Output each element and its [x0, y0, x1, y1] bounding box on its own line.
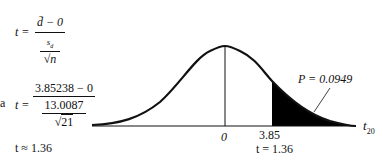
- tick-label-3-85: 3.85: [259, 129, 280, 141]
- x-axis-label: t20: [363, 119, 375, 136]
- p-value-annotation: P = 0.0949: [298, 73, 352, 85]
- density-curve: [92, 46, 356, 126]
- p-value-shaded-region: [272, 81, 356, 126]
- tick-label-0: 0: [221, 131, 227, 143]
- annotation-leader-line: [314, 88, 330, 112]
- observed-t-label: t = 1.36: [256, 143, 293, 155]
